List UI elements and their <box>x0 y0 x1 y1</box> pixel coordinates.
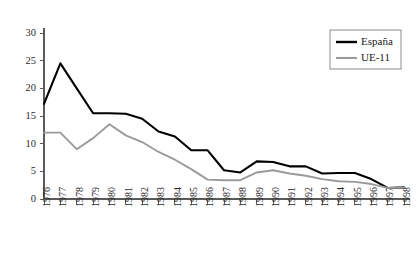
legend-label-espana: España <box>361 35 393 47</box>
x-tick-label: 1985 <box>188 187 199 207</box>
line-chart: 051015202530 197619771978197919801981198… <box>0 0 420 254</box>
x-tick-label: 1994 <box>335 187 346 207</box>
x-axis: 1976197719781979198019811982198319841985… <box>41 187 412 207</box>
x-tick-label: 1995 <box>352 187 363 207</box>
x-tick-label: 1978 <box>74 187 85 207</box>
x-tick-label: 1990 <box>270 187 281 207</box>
x-tick-label: 1980 <box>106 187 117 207</box>
x-tick-label: 1977 <box>57 187 68 207</box>
y-axis: 051015202530 <box>26 27 45 204</box>
series-line-espana <box>44 63 404 187</box>
y-tick-label: 10 <box>26 138 37 149</box>
y-tick-group: 051015202530 <box>26 27 45 204</box>
x-tick-label: 1993 <box>319 187 330 207</box>
x-tick-label: 1981 <box>123 187 134 207</box>
x-tick-label: 1982 <box>139 187 150 207</box>
data-series-group <box>44 63 404 187</box>
x-tick-label: 1986 <box>204 187 215 207</box>
legend-label-ue11: UE-11 <box>361 51 390 63</box>
x-tick-label: 1991 <box>286 187 297 207</box>
x-tick-label: 1987 <box>221 187 232 207</box>
y-tick-label: 20 <box>26 82 37 93</box>
x-tick-label: 1989 <box>254 187 265 207</box>
x-tick-label: 1998 <box>401 187 412 207</box>
y-tick-label: 25 <box>26 55 37 66</box>
x-tick-label: 1983 <box>155 187 166 207</box>
y-tick-label: 0 <box>31 193 36 204</box>
x-tick-label: 1984 <box>172 187 183 207</box>
x-tick-label: 1976 <box>41 187 52 207</box>
y-tick-label: 30 <box>26 27 37 38</box>
x-tick-label: 1979 <box>90 187 101 207</box>
x-tick-label: 1992 <box>303 187 314 207</box>
series-line-ue11 <box>44 124 404 188</box>
chart-legend: EspañaUE-11 <box>330 30 401 69</box>
y-tick-label: 15 <box>26 110 37 121</box>
chart-container: 051015202530 197619771978197919801981198… <box>0 0 420 254</box>
x-tick-label: 1988 <box>237 187 248 207</box>
y-tick-label: 5 <box>31 165 36 176</box>
x-tick-label: 1997 <box>384 187 395 207</box>
x-tick-label: 1996 <box>368 187 379 207</box>
x-tick-group: 1976197719781979198019811982198319841985… <box>41 187 412 207</box>
